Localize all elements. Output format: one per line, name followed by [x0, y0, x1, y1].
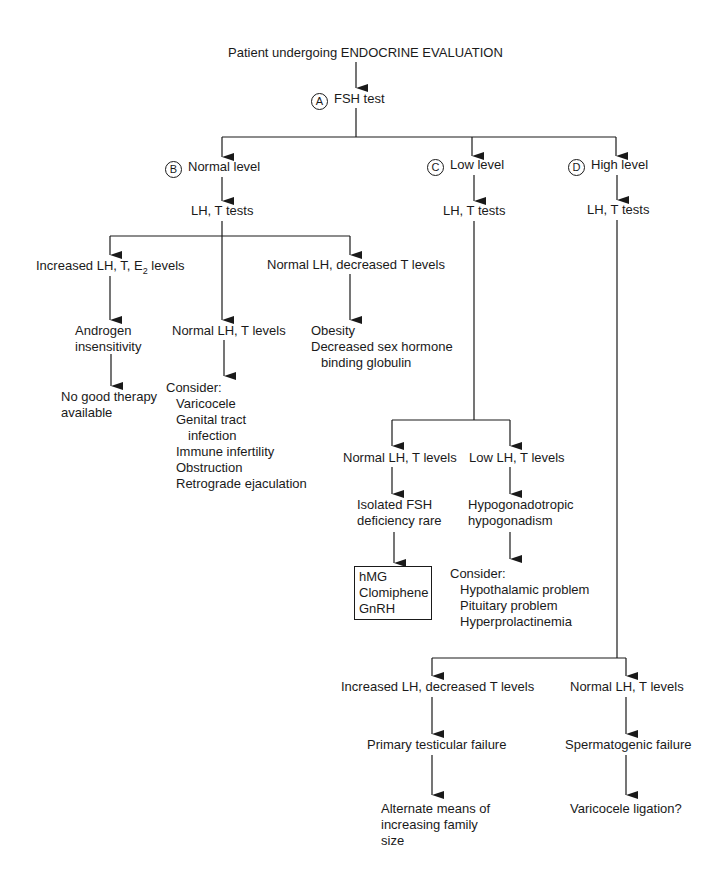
node-c1-result: Isolated FSH deficiency rare [357, 497, 442, 529]
consider-item: Genital tract [166, 412, 307, 428]
consider-item: infection [166, 428, 307, 444]
node-a-label: FSH test [334, 91, 385, 106]
b3-result-line: Decreased sex hormone [311, 339, 453, 355]
c1-result-line: deficiency rare [357, 513, 442, 529]
node-d1-outcome: Alternate means of increasing family siz… [381, 801, 490, 849]
node-b1-result: Androgen insensitivity [75, 323, 141, 355]
marker-a-icon: A [311, 93, 328, 110]
node-b2-normal-lh-t: Normal LH, T levels [172, 323, 286, 339]
c1-result-line: Isolated FSH [357, 497, 442, 513]
b1-result-line: Androgen [75, 323, 141, 339]
node-c1-treatment-box: hMG Clomiphene GnRH [354, 566, 432, 620]
treatment-item: GnRH [359, 601, 427, 617]
consider-item: Obstruction [166, 460, 307, 476]
node-b-normal-level: BNormal level [165, 159, 260, 178]
node-b-label: Normal level [188, 159, 260, 174]
b1-outcome-line: available [61, 405, 157, 421]
c2-result-line: Hypogonadotropic [468, 497, 574, 513]
marker-c-icon: C [427, 159, 444, 176]
treatment-item: hMG [359, 569, 427, 585]
consider-item: Varicocele [166, 396, 307, 412]
consider-heading: Consider: [166, 380, 307, 396]
b3-result-line: binding globulin [311, 355, 453, 371]
node-c2-low-lh-t: Low LH, T levels [469, 450, 565, 466]
consider-item: Immune infertility [166, 444, 307, 460]
node-d-label: High level [591, 157, 648, 172]
consider-item: Hyperprolactinemia [450, 614, 589, 630]
node-d-lh-t-tests: LH, T tests [587, 202, 649, 218]
consider-item: Pituitary problem [450, 598, 589, 614]
node-b3-normal-lh-decreased-t: Normal LH, decreased T levels [267, 257, 445, 273]
consider-heading: Consider: [450, 566, 589, 582]
d1-outcome-line: increasing family [381, 817, 490, 833]
marker-d-icon: D [568, 159, 585, 176]
node-c1-normal-lh-t: Normal LH, T levels [343, 450, 457, 466]
node-d1-result: Primary testicular failure [367, 737, 506, 753]
marker-b-icon: B [165, 161, 182, 178]
node-d1-increased-lh-decreased-t: Increased LH, decreased T levels [341, 679, 534, 695]
b1-text-post: levels [148, 258, 185, 273]
node-c-lh-t-tests: LH, T tests [443, 203, 505, 219]
node-c2-result: Hypogonadotropic hypogonadism [468, 497, 574, 529]
c2-result-line: hypogonadism [468, 513, 574, 529]
treatment-item: Clomiphene [359, 585, 427, 601]
node-d2-normal-lh-t: Normal LH, T levels [570, 679, 684, 695]
b3-result-line: Obesity [311, 323, 453, 339]
d1-outcome-line: Alternate means of [381, 801, 490, 817]
node-b3-result: Obesity Decreased sex hormone binding gl… [311, 323, 453, 371]
b1-text: Increased LH, T, E [36, 258, 143, 273]
root-title: Patient undergoing ENDOCRINE EVALUATION [228, 45, 503, 61]
flowchart: Patient undergoing ENDOCRINE EVALUATION … [0, 0, 714, 872]
consider-item: Retrograde ejaculation [166, 476, 307, 492]
consider-item: Hypothalamic problem [450, 582, 589, 598]
node-b2-consider: Consider: Varicocele Genital tract infec… [166, 380, 307, 492]
d1-outcome-line: size [381, 833, 490, 849]
node-d2-result: Spermatogenic failure [565, 737, 691, 753]
b1-result-line: insensitivity [75, 339, 141, 355]
node-c2-consider: Consider: Hypothalamic problem Pituitary… [450, 566, 589, 630]
node-b1-increased-lh-t-e2: Increased LH, T, E2 levels [36, 258, 185, 279]
node-a-fsh-test: AFSH test [311, 91, 385, 110]
node-b1-outcome: No good therapy available [61, 389, 157, 421]
node-d2-outcome: Varicocele ligation? [570, 801, 682, 817]
node-c-low-level: CLow level [427, 157, 504, 176]
node-d-high-level: DHigh level [568, 157, 648, 176]
node-c-label: Low level [450, 157, 504, 172]
b1-outcome-line: No good therapy [61, 389, 157, 405]
node-b-lh-t-tests: LH, T tests [191, 203, 253, 219]
